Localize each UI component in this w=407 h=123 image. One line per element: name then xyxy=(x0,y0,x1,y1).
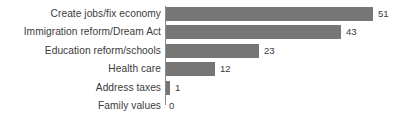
bar-chart: Create jobs/fix economy 51 Immigration r… xyxy=(0,0,407,123)
value-label: 0 xyxy=(169,99,174,113)
category-label: Health care xyxy=(0,60,161,78)
category-label: Family values xyxy=(0,97,161,115)
value-label: 51 xyxy=(378,7,389,21)
bar xyxy=(166,25,341,39)
y-axis-line xyxy=(165,6,166,105)
value-label: 23 xyxy=(264,44,275,58)
bar xyxy=(166,44,259,58)
table-row: Immigration reform/Dream Act 43 xyxy=(0,23,407,41)
table-row: Health care 12 xyxy=(0,60,407,78)
category-label: Address taxes xyxy=(0,79,161,97)
table-row: Education reform/schools 23 xyxy=(0,42,407,60)
plot-area: Create jobs/fix economy 51 Immigration r… xyxy=(0,0,407,123)
table-row: Address taxes 1 xyxy=(0,79,407,97)
bar xyxy=(166,81,170,95)
bar xyxy=(166,7,373,21)
value-label: 1 xyxy=(175,81,180,95)
category-label: Create jobs/fix economy xyxy=(0,5,161,23)
table-row: Create jobs/fix economy 51 xyxy=(0,5,407,23)
value-label: 12 xyxy=(220,62,231,76)
bar xyxy=(166,62,215,76)
category-label: Immigration reform/Dream Act xyxy=(0,23,161,41)
value-label: 43 xyxy=(346,25,357,39)
table-row: Family values 0 xyxy=(0,97,407,115)
category-label: Education reform/schools xyxy=(0,42,161,60)
